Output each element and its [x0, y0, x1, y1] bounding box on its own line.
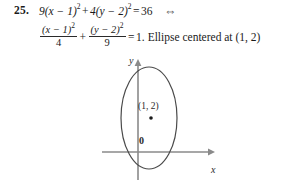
eq1-exp-a: 2	[77, 2, 81, 11]
eq1-group-a: (x − 1)	[45, 5, 77, 17]
eq1-equals: =	[132, 5, 142, 17]
fraction-2-numerator: (y − 2)2	[89, 24, 126, 36]
x-axis-label: x	[211, 164, 215, 175]
eq1-exp-b: 2	[128, 2, 132, 11]
fraction-1: (x − 1)2 4	[40, 24, 77, 48]
ellipse-curve	[121, 67, 177, 169]
fraction-1-numerator-exp: 2	[71, 21, 75, 30]
fraction-1-numerator-text: (x − 1)	[42, 24, 71, 35]
fraction-1-denominator: 4	[54, 37, 63, 49]
eq1-group-b: (y − 2)	[96, 5, 128, 17]
eq1-plus: +	[81, 5, 91, 17]
fraction-2-numerator-exp: 2	[120, 21, 124, 30]
eq1-rhs: 36	[141, 5, 153, 17]
equation-line-2: (x − 1)2 4 + (y − 2)2 9 = 1. Ellipse cen…	[39, 25, 260, 49]
origin-label: 0	[139, 135, 144, 146]
eq2-plus: +	[78, 31, 88, 43]
graph-svg	[100, 52, 225, 182]
eq2-equals: =	[127, 31, 137, 43]
iff-symbol: ⇔	[153, 4, 177, 18]
y-axis-label: y	[129, 55, 133, 66]
equation-line-1: 9(x − 1)2+4(y − 2)2=36⇔	[39, 4, 177, 19]
exercise-solution-page: 25. 9(x − 1)2+4(y − 2)2=36⇔ (x − 1)2 4 +…	[0, 0, 302, 182]
center-point-dot	[149, 116, 153, 120]
ellipse-graph: y x 0 (1, 2)	[100, 52, 225, 182]
fraction-2-numerator-text: (y − 2)	[91, 24, 120, 35]
center-point-label: (1, 2)	[138, 101, 159, 111]
solution-description: Ellipse centered at (1, 2)	[145, 31, 261, 43]
eq2-rhs: 1.	[136, 31, 145, 43]
x-axis-arrowhead	[208, 149, 215, 156]
fraction-2: (y − 2)2 9	[89, 24, 126, 48]
fraction-1-numerator: (x − 1)2	[40, 24, 77, 36]
problem-number: 25.	[14, 4, 29, 16]
fraction-2-denominator: 9	[102, 37, 111, 49]
y-axis-arrowhead	[135, 59, 142, 66]
